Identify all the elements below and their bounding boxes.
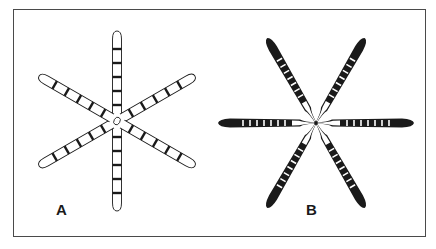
- panel-b-figure: [218, 36, 414, 210]
- panel-label-b: B: [306, 201, 317, 218]
- panel-label-a: A: [56, 201, 67, 218]
- panel-a-figure: [37, 31, 197, 211]
